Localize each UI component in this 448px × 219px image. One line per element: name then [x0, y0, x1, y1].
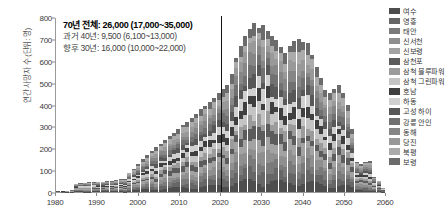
bar-2012	[199, 109, 203, 192]
bar-segment	[319, 167, 323, 175]
bar-segment	[252, 96, 256, 107]
bar-segment	[319, 175, 323, 184]
legend-item[interactable]: 하동	[389, 96, 448, 106]
bar-segment	[234, 68, 238, 76]
legend-item[interactable]: 북평	[389, 147, 448, 157]
bar-segment	[310, 59, 314, 69]
legend-item[interactable]: 태안	[389, 26, 448, 36]
bar-segment	[270, 66, 274, 74]
bar-segment	[292, 52, 296, 61]
bar-segment	[74, 191, 78, 192]
bar-segment	[230, 170, 234, 177]
bar-segment	[355, 190, 359, 192]
bar-segment	[283, 182, 287, 192]
legend-item[interactable]: 강릉 안인	[389, 117, 448, 127]
x-axis-tick-label: 2000	[129, 198, 146, 207]
legend-item[interactable]: 보령	[389, 157, 448, 167]
bar-segment	[225, 124, 229, 131]
bar-2015	[212, 98, 216, 193]
bar-segment	[332, 167, 336, 175]
legend-item[interactable]: 영흥	[389, 16, 448, 26]
legend-item[interactable]: 삼척 그린파워	[389, 76, 448, 86]
bar-segment	[239, 127, 243, 139]
bar-segment	[315, 77, 319, 86]
bar-segment	[230, 98, 234, 105]
bar-segment	[239, 90, 243, 99]
bar-segment	[261, 40, 265, 47]
legend-item[interactable]: 신서천	[389, 36, 448, 46]
bar-2044	[341, 93, 345, 192]
bar-2002	[154, 147, 158, 192]
bar-segment	[199, 125, 203, 132]
bar-segment	[225, 131, 229, 138]
bar-segment	[225, 138, 229, 145]
legend-swatch	[389, 128, 400, 135]
bar-segment	[292, 41, 296, 52]
bar-segment	[332, 106, 336, 114]
bar-segment	[328, 122, 332, 129]
bar-segment	[288, 104, 292, 113]
bar-segment	[252, 41, 256, 54]
bar-segment	[212, 143, 216, 150]
bar-segment	[301, 71, 305, 78]
bar-segment	[297, 138, 301, 147]
bar-segment	[270, 74, 274, 84]
bar-segment	[234, 107, 238, 117]
legend-label: 호남	[403, 86, 416, 96]
bar-segment	[297, 64, 301, 76]
bar-segment	[234, 173, 238, 183]
legend-item[interactable]: 당진	[389, 137, 448, 147]
bar-segment	[292, 125, 296, 137]
bar-segment	[266, 75, 270, 86]
legend-item[interactable]: 삼천포	[389, 56, 448, 66]
bar-segment	[297, 147, 301, 156]
bar-segment	[297, 98, 301, 109]
bar-segment	[154, 190, 158, 192]
bar-segment	[248, 43, 252, 52]
bar-2018	[225, 84, 229, 192]
legend-swatch	[389, 38, 400, 45]
legend-item[interactable]: 호남	[389, 86, 448, 96]
legend-item[interactable]: 여수	[389, 6, 448, 16]
bar-segment	[243, 102, 247, 115]
bar-2020	[234, 57, 238, 192]
bar-segment	[350, 187, 354, 192]
bar-segment	[266, 137, 270, 150]
bar-segment	[297, 186, 301, 192]
bar-segment	[283, 157, 287, 168]
legend-item[interactable]: 신보령	[389, 46, 448, 56]
bar-1993	[114, 180, 118, 192]
legend-item[interactable]: 동해	[389, 127, 448, 137]
legend-item[interactable]: 고성 하이	[389, 106, 448, 116]
bar-2036	[306, 43, 310, 192]
x-axis-tick-mark	[96, 193, 97, 196]
bar-segment	[332, 154, 336, 162]
bar-2038	[315, 67, 319, 192]
bar-2049	[363, 162, 367, 192]
bar-segment	[185, 188, 189, 192]
bar-1996	[127, 172, 131, 192]
legend-item[interactable]: 삼척 블루파워	[389, 66, 448, 76]
bar-segment	[328, 114, 332, 121]
bar-segment	[230, 127, 234, 136]
bar-segment	[257, 114, 261, 127]
annotation-line-past: 과거 40년: 9,500 (6,100~13,000)	[63, 31, 192, 42]
bar-segment	[337, 171, 341, 179]
bar-segment	[159, 190, 163, 192]
bar-segment	[257, 140, 261, 152]
bar-segment	[199, 187, 203, 192]
bar-segment	[288, 113, 292, 120]
bar-1982	[65, 191, 69, 192]
bar-segment	[257, 127, 261, 140]
legend-swatch	[389, 8, 400, 15]
bar-segment	[328, 150, 332, 157]
bar-segment	[257, 46, 261, 55]
bar-segment	[261, 89, 265, 104]
bar-segment	[279, 180, 283, 192]
bar-segment	[270, 153, 274, 161]
bar-segment	[239, 154, 243, 166]
bar-2047	[355, 162, 359, 192]
bar-segment	[292, 174, 296, 185]
bar-segment	[297, 179, 301, 186]
bar-segment	[337, 179, 341, 186]
